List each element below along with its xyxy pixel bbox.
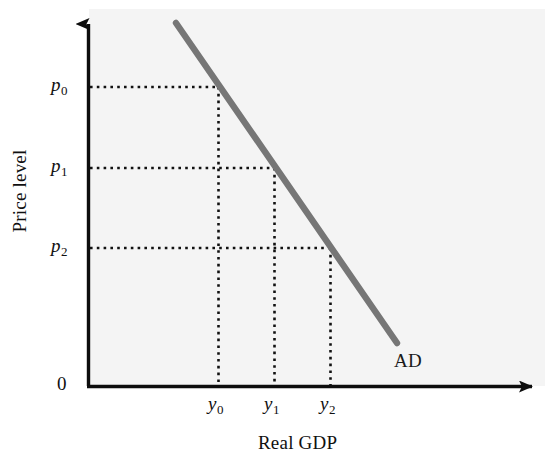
- x-tick-label-y1: y1: [264, 393, 279, 418]
- y-tick-sub-p2: 2: [61, 244, 68, 259]
- aggregate-demand-figure: Price level Real GDP 0 p0 p1 p2 y0 y1 y2…: [0, 0, 558, 475]
- x-tick-label-y0: y0: [208, 393, 223, 418]
- x-tick-label-y2: y2: [320, 393, 335, 418]
- y-tick-label-p0: p0: [51, 74, 68, 99]
- ad-curve-label: AD: [394, 350, 422, 372]
- y-tick-sub-p0: 0: [61, 83, 68, 98]
- y-tick-sub-p1: 1: [61, 164, 68, 179]
- y-tick-label-p2: p2: [51, 235, 68, 260]
- y-tick-base-p0: p: [51, 74, 61, 95]
- y-tick-base-p1: p: [51, 155, 61, 176]
- plot-background: [89, 9, 545, 386]
- x-axis-title: Real GDP: [258, 432, 337, 454]
- y-tick-base-p2: p: [51, 235, 61, 256]
- x-tick-sub-y1: 1: [272, 402, 279, 417]
- y-tick-label-p1: p1: [51, 155, 68, 180]
- x-tick-sub-y0: 0: [216, 402, 223, 417]
- y-axis-title: Price level: [9, 131, 31, 251]
- x-tick-sub-y2: 2: [328, 402, 335, 417]
- origin-label: 0: [57, 373, 67, 395]
